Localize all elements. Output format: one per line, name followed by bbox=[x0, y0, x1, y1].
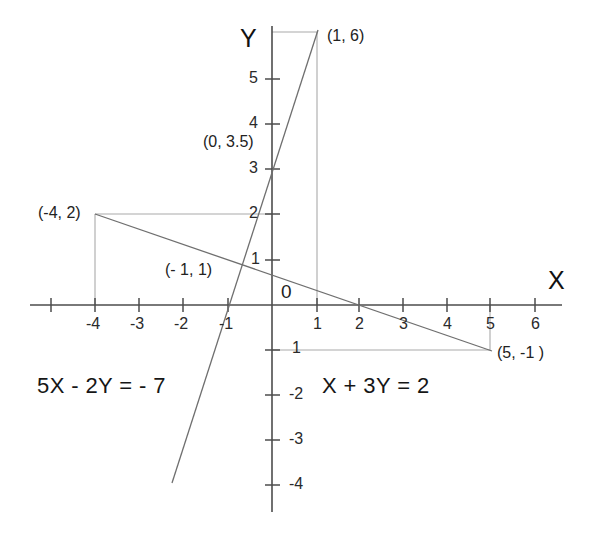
point-label-5-neg1: (5, -1 ) bbox=[497, 345, 544, 361]
x-tick-label--3: -3 bbox=[130, 316, 144, 332]
x-tick-label-6: 6 bbox=[531, 316, 540, 332]
x-tick-label--1: -1 bbox=[219, 316, 233, 332]
point-label-0-3point5: (0, 3.5) bbox=[203, 134, 254, 150]
x-axis-label: X bbox=[548, 268, 565, 293]
line-x-plus-3y-eq-2 bbox=[95, 214, 492, 351]
y-tick-label-1: 1 bbox=[251, 251, 260, 267]
plot-canvas bbox=[0, 0, 591, 542]
x-tick-label-4: 4 bbox=[443, 316, 452, 332]
point-label-neg4-2: (-4, 2) bbox=[38, 205, 81, 221]
origin-label: 0 bbox=[281, 282, 292, 301]
x-tick-label-3: 3 bbox=[399, 316, 408, 332]
y-tick-label-3: 3 bbox=[249, 160, 258, 176]
y-tick-label--4: -4 bbox=[289, 476, 303, 492]
x-tick-label-2: 2 bbox=[355, 316, 364, 332]
graph-figure: Y X 0 -4 -3 -2 -1 1 2 3 4 5 6 5 4 3 2 1 … bbox=[0, 0, 591, 542]
point-label-neg1-1: (- 1, 1) bbox=[165, 262, 212, 278]
x-tick-label--2: -2 bbox=[174, 316, 188, 332]
equation-label-1: 5X - 2Y = - 7 bbox=[37, 375, 166, 397]
line-5x-2y-eq-neg7 bbox=[172, 30, 318, 483]
y-tick-label-4: 4 bbox=[249, 115, 258, 131]
y-tick-label--3: -3 bbox=[289, 431, 303, 447]
equation-label-2: X + 3Y = 2 bbox=[322, 375, 430, 397]
y-tick-label--1: 1 bbox=[292, 340, 301, 356]
y-tick-label-5: 5 bbox=[249, 70, 258, 86]
plotted-lines bbox=[95, 30, 492, 483]
x-tick-label-5: 5 bbox=[486, 316, 495, 332]
point-label-1-6: (1, 6) bbox=[327, 28, 364, 44]
y-axis-label: Y bbox=[240, 26, 257, 51]
y-tick-label-2: 2 bbox=[249, 205, 258, 221]
guide-lines bbox=[95, 32, 490, 350]
y-tick-label--2: -2 bbox=[289, 386, 303, 402]
x-tick-label-1: 1 bbox=[313, 316, 322, 332]
x-tick-label--4: -4 bbox=[86, 316, 100, 332]
